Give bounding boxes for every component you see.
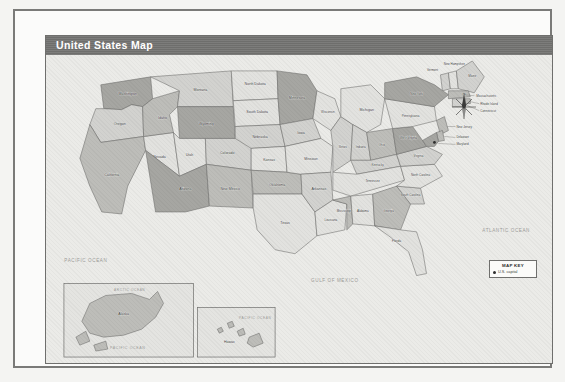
capital-marker[interactable] [433, 141, 436, 144]
ocean-label-pacific: PACIFIC OCEAN [64, 258, 107, 263]
state-label-new-hampshire: New Hampshire [444, 62, 465, 66]
state-north-carolina[interactable]: North Carolina [397, 164, 443, 188]
ocean-label-atlantic: ATLANTIC OCEAN [482, 228, 530, 233]
map-card: United States Map Washington Oregon [45, 35, 553, 364]
page-title: United States Map [56, 39, 153, 51]
ocean-label-pacific-hawaii: PACIFIC OCEAN [239, 316, 271, 320]
state-new-mexico[interactable]: New Mexico [206, 164, 253, 208]
compass-north-label: N [463, 93, 466, 96]
ocean-label-arctic: ARCTIC OCEAN [114, 288, 145, 292]
state-south-dakota[interactable]: South Dakota [233, 99, 280, 127]
legend-item-label: U.S. capital [498, 270, 517, 274]
state-label-rhode-island: Rhode Island [480, 102, 498, 106]
map-title-bar: United States Map [46, 36, 552, 55]
map-page: United States Map Washington Oregon [0, 0, 565, 382]
state-label-massachusetts: Massachusetts [476, 94, 496, 98]
state-label-delaware: Delaware [456, 135, 469, 139]
state-florida[interactable]: Florida [375, 226, 427, 276]
state-maryland[interactable]: Maryland [423, 132, 469, 146]
map-legend[interactable]: MAP KEY U.S. capital [489, 260, 537, 278]
state-wyoming[interactable]: Wyoming [177, 107, 235, 139]
state-oklahoma[interactable]: Oklahoma [251, 170, 302, 194]
state-delaware[interactable]: Delaware [436, 131, 469, 142]
plate-frame: United States Map Washington Oregon [13, 9, 552, 368]
hawaii-inset[interactable]: Hawaii PACIFIC OCEAN [197, 307, 275, 357]
legend-item-capital: U.S. capital [493, 270, 533, 274]
state-texas[interactable]: Texas [253, 194, 317, 254]
capital-dot-icon [493, 271, 496, 274]
compass-rose: N [450, 93, 478, 121]
alaska-inset[interactable]: Alaska PACIFIC OCEAN ARCTIC OCEAN [64, 284, 193, 358]
state-alabama[interactable]: Alabama [351, 194, 375, 226]
state-minnesota[interactable]: Minnesota [277, 71, 317, 125]
state-label-new-jersey: New Jersey [456, 125, 472, 129]
state-north-dakota[interactable]: North Dakota [231, 71, 278, 101]
map-canvas: Washington Oregon California Nevada [46, 55, 552, 363]
state-maine[interactable]: Maine [456, 61, 484, 93]
state-label-connecticut: Connecticut [480, 109, 496, 113]
state-label-vermont: Vermont [427, 68, 438, 72]
state-oregon[interactable]: Oregon [90, 105, 144, 143]
legend-title: MAP KEY [493, 263, 533, 268]
ocean-label-gulf: GULF OF MEXICO [311, 278, 358, 283]
state-label-maryland: Maryland [456, 142, 469, 146]
state-kansas[interactable]: Kansas [251, 146, 287, 172]
ocean-label-pacific-alaska: PACIFIC OCEAN [110, 346, 145, 350]
